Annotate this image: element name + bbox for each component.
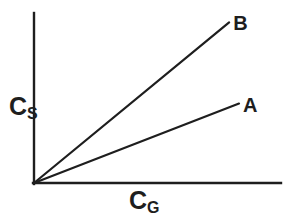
x-axis-label: CG bbox=[129, 188, 160, 213]
x-axis-label-main: C bbox=[129, 186, 147, 214]
y-axis-label-sub: S bbox=[27, 105, 38, 122]
chart-figure: B A CS CG bbox=[0, 0, 287, 220]
series-label-A: A bbox=[243, 94, 257, 116]
x-axis-label-sub: G bbox=[147, 199, 159, 216]
series-line-A bbox=[34, 104, 239, 183]
series-line-B bbox=[34, 22, 229, 183]
series-label-B: B bbox=[233, 12, 247, 34]
y-axis-label-main: C bbox=[9, 92, 27, 120]
y-axis-label: CS bbox=[9, 94, 38, 119]
